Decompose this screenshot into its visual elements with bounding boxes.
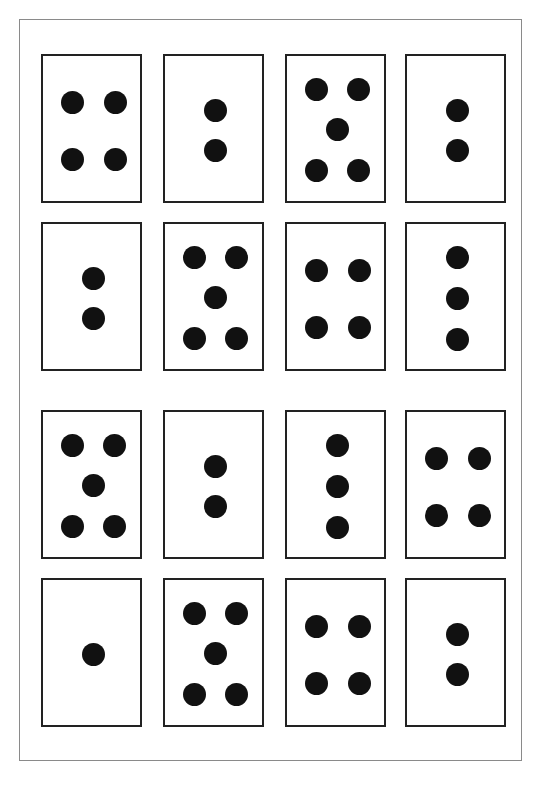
dot-icon bbox=[61, 434, 84, 457]
dot-icon bbox=[225, 246, 248, 269]
dot-icon bbox=[225, 602, 248, 625]
dot-icon bbox=[446, 139, 469, 162]
dot-icon bbox=[348, 615, 371, 638]
dot-card[interactable]: 2 bbox=[163, 54, 264, 203]
dot-icon bbox=[61, 91, 84, 114]
dot-icon bbox=[468, 447, 491, 470]
dot-card[interactable]: 3 bbox=[405, 222, 506, 371]
dot-icon bbox=[183, 327, 206, 350]
dot-icon bbox=[468, 504, 491, 527]
dot-icon bbox=[425, 504, 448, 527]
dot-icon bbox=[326, 516, 349, 539]
dot-icon bbox=[305, 316, 328, 339]
dot-icon bbox=[103, 434, 126, 457]
dot-card[interactable]: 4 bbox=[285, 578, 386, 727]
dot-icon bbox=[204, 495, 227, 518]
dot-card[interactable]: 4 bbox=[41, 54, 142, 203]
dot-card[interactable]: 5 bbox=[163, 578, 264, 727]
dot-card[interactable]: 2 bbox=[405, 54, 506, 203]
dot-card[interactable]: 2 bbox=[163, 410, 264, 559]
dot-icon bbox=[348, 259, 371, 282]
dot-icon bbox=[326, 118, 349, 141]
dot-icon bbox=[183, 246, 206, 269]
dot-icon bbox=[82, 267, 105, 290]
dot-icon bbox=[348, 316, 371, 339]
dot-icon bbox=[204, 286, 227, 309]
dot-icon bbox=[446, 328, 469, 351]
dot-icon bbox=[446, 663, 469, 686]
dot-icon bbox=[61, 148, 84, 171]
dot-icon bbox=[183, 602, 206, 625]
dot-card[interactable]: 4 bbox=[285, 222, 386, 371]
dot-icon bbox=[446, 99, 469, 122]
dot-icon bbox=[305, 159, 328, 182]
dot-icon bbox=[225, 683, 248, 706]
dot-icon bbox=[446, 287, 469, 310]
dot-icon bbox=[82, 474, 105, 497]
dot-icon bbox=[425, 447, 448, 470]
dot-icon bbox=[104, 148, 127, 171]
dot-icon bbox=[305, 78, 328, 101]
dot-icon bbox=[204, 139, 227, 162]
dot-icon bbox=[61, 515, 84, 538]
dot-icon bbox=[82, 643, 105, 666]
dot-icon bbox=[347, 159, 370, 182]
dot-icon bbox=[446, 246, 469, 269]
dot-icon bbox=[204, 642, 227, 665]
dot-icon bbox=[204, 99, 227, 122]
dot-icon bbox=[348, 672, 371, 695]
dot-icon bbox=[326, 475, 349, 498]
dot-icon bbox=[326, 434, 349, 457]
dot-icon bbox=[225, 327, 248, 350]
dot-card[interactable]: 2 bbox=[41, 222, 142, 371]
dot-icon bbox=[305, 615, 328, 638]
dot-icon bbox=[104, 91, 127, 114]
dot-card[interactable]: 1 bbox=[41, 578, 142, 727]
dot-icon bbox=[82, 307, 105, 330]
dot-card[interactable]: 5 bbox=[163, 222, 264, 371]
dot-card[interactable]: 5 bbox=[285, 54, 386, 203]
dot-icon bbox=[204, 455, 227, 478]
dot-card[interactable]: 2 bbox=[405, 578, 506, 727]
dot-icon bbox=[305, 672, 328, 695]
dot-icon bbox=[305, 259, 328, 282]
dot-icon bbox=[103, 515, 126, 538]
dot-card[interactable]: 5 bbox=[41, 410, 142, 559]
dot-icon bbox=[347, 78, 370, 101]
dot-icon bbox=[446, 623, 469, 646]
dot-icon bbox=[183, 683, 206, 706]
dot-card[interactable]: 4 bbox=[405, 410, 506, 559]
dot-card[interactable]: 3 bbox=[285, 410, 386, 559]
